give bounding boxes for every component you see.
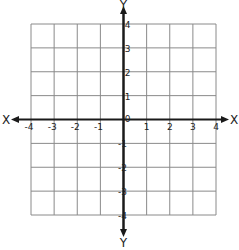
x-tick-label: -3 xyxy=(48,122,57,131)
y-tick-label: 1 xyxy=(125,92,131,101)
x-axis-left-arrow-icon xyxy=(11,116,19,123)
origin-label: 0 xyxy=(125,114,131,123)
y-axis-label-top: Y xyxy=(120,0,127,11)
y-tick-label: -3 xyxy=(118,188,127,197)
y-tick-label: 2 xyxy=(125,68,131,77)
x-tick-label: -4 xyxy=(25,122,34,131)
x-tick-label: 1 xyxy=(144,122,150,131)
x-axis-label-left: X xyxy=(2,114,10,126)
y-axis-label-bottom: Y xyxy=(120,237,127,249)
y-tick-label: -2 xyxy=(118,164,127,173)
y-tick-label: 4 xyxy=(125,21,131,30)
y-tick-label: -4 xyxy=(118,212,127,221)
x-tick-label: 3 xyxy=(190,122,196,131)
x-tick-label: -2 xyxy=(71,122,80,131)
x-tick-label: -1 xyxy=(94,122,103,131)
y-tick-label: 3 xyxy=(125,44,131,53)
coordinate-plane: XXYY-4-3-2-112344321-1-2-3-40 xyxy=(0,0,239,250)
x-tick-label: 4 xyxy=(213,122,219,131)
y-tick-label: -1 xyxy=(118,140,127,149)
x-axis-label-right: X xyxy=(230,114,238,126)
x-axis-right-arrow-icon xyxy=(221,116,229,123)
x-tick-label: 2 xyxy=(167,122,173,131)
